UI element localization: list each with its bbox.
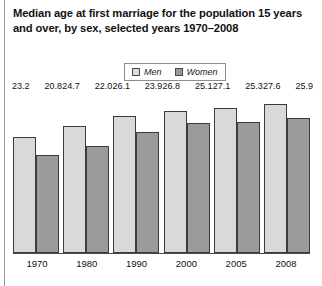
- bar-wrap-men: 26.1: [113, 92, 136, 253]
- legend-item-women: Women: [175, 67, 218, 77]
- bar-women: [36, 155, 59, 253]
- bar-value-women: 20.8: [44, 81, 62, 91]
- x-tick-label: 2000: [162, 258, 210, 269]
- bar-wrap-women: 23.9: [136, 92, 159, 253]
- bar-wrap-women: 25.9: [287, 92, 310, 253]
- bar-men: [164, 111, 187, 253]
- bar-men: [113, 116, 136, 253]
- legend-item-men: Men: [132, 67, 162, 77]
- bar-value-men: 27.1: [213, 81, 231, 91]
- bar-value-women: 25.3: [245, 81, 263, 91]
- bar-women: [287, 118, 310, 253]
- x-axis-line: [13, 253, 310, 254]
- legend-label-women: Women: [187, 67, 218, 77]
- bar-value-women: 25.9: [295, 81, 313, 91]
- legend-swatch-women: [175, 68, 183, 76]
- bar-wrap-men: 27.1: [214, 92, 237, 253]
- bar-value-men: 27.6: [263, 81, 281, 91]
- bar-wrap-women: 25.3: [237, 92, 260, 253]
- bar-wrap-women: 25.1: [187, 92, 210, 253]
- chart-legend: Men Women: [124, 63, 226, 81]
- bar-women: [86, 146, 109, 253]
- x-axis-tick-labels: 1970 1980 1990 2000 2005 2008: [13, 258, 310, 269]
- bar-value-men: 26.8: [163, 81, 181, 91]
- bar-value-men: 26.1: [112, 81, 130, 91]
- bar-value-men: 24.7: [62, 81, 80, 91]
- bar-men: [214, 108, 237, 253]
- bar-women: [136, 132, 159, 253]
- legend-swatch-men: [132, 68, 140, 76]
- page-margin-rule: [4, 0, 5, 286]
- bars-container: 23.2 20.8 24.7 22.0: [13, 92, 310, 253]
- bar-group: 27.1 25.3: [214, 92, 260, 253]
- x-tick-label: 2005: [212, 258, 260, 269]
- bar-value-men: 23.2: [12, 81, 30, 91]
- bar-wrap-men: 26.8: [164, 92, 187, 253]
- chart-figure: Median age at first marriage for the pop…: [0, 0, 322, 286]
- bar-value-women: 22.0: [95, 81, 113, 91]
- bar-group: 26.8 25.1: [164, 92, 210, 253]
- chart-title: Median age at first marriage for the pop…: [13, 6, 313, 35]
- bar-men: [264, 104, 287, 253]
- x-tick-label: 2008: [262, 258, 310, 269]
- x-tick-label: 1970: [13, 258, 61, 269]
- bar-group: 26.1 23.9: [113, 92, 159, 253]
- x-tick-label: 1980: [63, 258, 111, 269]
- bar-men: [63, 126, 86, 253]
- legend-label-men: Men: [144, 67, 162, 77]
- bar-wrap-women: 20.8: [36, 92, 59, 253]
- bar-value-women: 23.9: [145, 81, 163, 91]
- bar-men: [13, 137, 36, 253]
- bar-wrap-women: 22.0: [86, 92, 109, 253]
- bar-value-women: 25.1: [195, 81, 213, 91]
- bar-group: 23.2 20.8: [13, 92, 59, 253]
- bar-group: 24.7 22.0: [63, 92, 109, 253]
- plot-area: 23.2 20.8 24.7 22.0: [13, 92, 310, 254]
- bar-wrap-men: 23.2: [13, 92, 36, 253]
- bar-wrap-men: 27.6: [264, 92, 287, 253]
- bar-group: 27.6 25.9: [264, 92, 310, 253]
- bar-women: [237, 122, 260, 253]
- x-tick-label: 1990: [113, 258, 161, 269]
- bar-women: [187, 123, 210, 253]
- bar-wrap-men: 24.7: [63, 92, 86, 253]
